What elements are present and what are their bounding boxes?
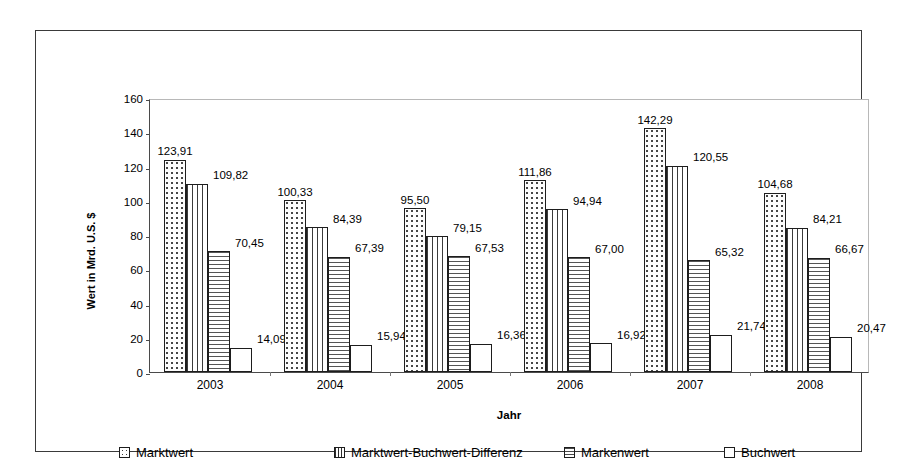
x-tick-label: 2007 <box>630 379 750 391</box>
bar-value-label: 66,67 <box>835 244 864 256</box>
bar-value-label: 142,29 <box>637 115 672 127</box>
legend-item[interactable]: Marktwert-Buchwert-Differenz <box>334 439 523 465</box>
bar-value-label: 67,53 <box>475 243 504 255</box>
figure-frame: Wert in Mrd. U.S. $ 02040608010012014016… <box>35 30 862 452</box>
bar: 94,94 <box>546 209 568 372</box>
bar-value-label: 79,15 <box>453 223 482 235</box>
legend-item[interactable]: Buchwert <box>724 439 795 465</box>
x-tick-mark <box>510 372 511 376</box>
plot-area: 020406080100120140160 123,91109,8270,451… <box>149 99 869 373</box>
bar-value-label: 123,91 <box>157 146 192 158</box>
x-tick-label: 2006 <box>510 379 630 391</box>
x-tick-mark <box>270 372 271 376</box>
bar: 66,67 <box>808 258 830 372</box>
bar-value-label: 84,39 <box>333 214 362 226</box>
bar-value-label: 94,94 <box>573 196 602 208</box>
bar: 16,36 <box>470 344 492 372</box>
bar-group: 100,3384,3967,3915,942004 <box>270 100 390 372</box>
bar-value-label: 84,21 <box>813 214 842 226</box>
bar-group: 142,29120,5565,3221,742007 <box>630 100 750 372</box>
bar: 70,45 <box>208 251 230 372</box>
y-axis-title: Wert in Mrd. U.S. $ <box>82 181 100 341</box>
bar-value-label: 111,86 <box>518 167 551 179</box>
bar: 109,82 <box>186 184 208 372</box>
legend-swatch-icon <box>334 447 345 458</box>
chart-legend: MarktwertMarktwert-Buchwert-DifferenzMar… <box>71 439 898 465</box>
legend-item[interactable]: Markenwert <box>564 439 649 465</box>
y-tick-mark <box>146 374 150 375</box>
bar-group: 104,6884,2166,6720,472008 <box>750 100 870 372</box>
bar-group: 95,5079,1567,5316,362005 <box>390 100 510 372</box>
bar-value-label: 65,32 <box>715 247 744 259</box>
bar: 84,21 <box>786 228 808 372</box>
x-tick-label: 2003 <box>150 379 270 391</box>
y-axis-title-label: Wert in Mrd. U.S. $ <box>85 213 97 310</box>
x-tick-label: 2005 <box>390 379 510 391</box>
bar-value-label: 67,39 <box>355 243 384 255</box>
legend-item-label: Marktwert-Buchwert-Differenz <box>351 446 523 459</box>
legend-swatch-icon <box>119 447 130 458</box>
bar-value-label: 100,33 <box>277 187 312 199</box>
bar: 20,47 <box>830 337 852 372</box>
bar: 79,15 <box>426 236 448 372</box>
x-tick-mark <box>750 372 751 376</box>
bar-value-label: 109,82 <box>213 170 248 182</box>
bar: 95,50 <box>404 208 426 372</box>
bar-value-label: 104,68 <box>757 179 792 191</box>
x-tick-label: 2008 <box>750 379 870 391</box>
x-tick-mark <box>390 372 391 376</box>
x-tick-label: 2004 <box>270 379 390 391</box>
bar: 65,32 <box>688 260 710 372</box>
bar: 100,33 <box>284 200 306 372</box>
bar: 16,92 <box>590 343 612 372</box>
bar: 14,09 <box>230 348 252 372</box>
legend-item-label: Marktwert <box>136 446 193 459</box>
legend-swatch-icon <box>724 447 735 458</box>
legend-item-label: Markenwert <box>581 446 649 459</box>
bar-group: 111,8694,9467,0016,922006 <box>510 100 630 372</box>
bar: 84,39 <box>306 227 328 372</box>
bar: 120,55 <box>666 166 688 372</box>
bar: 67,39 <box>328 257 350 372</box>
bar: 123,91 <box>164 160 186 372</box>
bar-value-label: 67,00 <box>595 244 624 256</box>
chart-figure: Wert in Mrd. U.S. $ 02040608010012014016… <box>0 0 898 476</box>
bar: 104,68 <box>764 193 786 372</box>
bar: 142,29 <box>644 128 666 372</box>
bar: 67,53 <box>448 256 470 372</box>
bar: 21,74 <box>710 335 732 372</box>
bar-value-label: 20,47 <box>857 323 886 335</box>
bar-group: 123,91109,8270,4514,092003 <box>150 100 270 372</box>
bar: 67,00 <box>568 257 590 372</box>
bar: 111,86 <box>524 180 546 372</box>
x-tick-mark <box>630 372 631 376</box>
bar-value-label: 95,50 <box>401 195 430 207</box>
bar: 15,94 <box>350 345 372 372</box>
legend-swatch-icon <box>564 447 575 458</box>
bar-value-label: 70,45 <box>235 238 264 250</box>
legend-item-label: Buchwert <box>741 446 795 459</box>
legend-item[interactable]: Marktwert <box>119 439 193 465</box>
bar-value-label: 120,55 <box>693 152 728 164</box>
x-axis-title: Jahr <box>149 409 869 421</box>
